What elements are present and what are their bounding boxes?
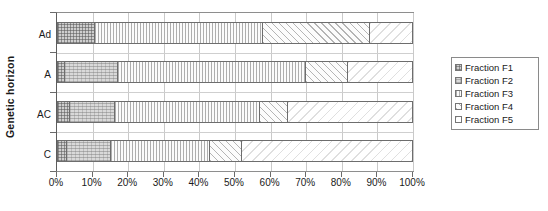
legend-label-f4: Fraction F4 [465, 102, 513, 112]
y-axis-title: Genetic horizon [2, 22, 18, 172]
legend-item-f2[interactable]: Fraction F2 [455, 74, 534, 87]
chart-legend: Fraction F1Fraction F2Fraction F3Fractio… [451, 57, 539, 130]
legend-swatch-icon-f1 [455, 64, 462, 71]
bar-segment-C-f5 [242, 141, 412, 161]
bar-segment-C-f3 [111, 141, 210, 161]
bar-segment-C-f4 [210, 141, 242, 161]
bar-segment-C-f2 [67, 141, 111, 161]
gridline-horizontal [57, 53, 413, 54]
x-axis-label-40: 40% [188, 178, 208, 188]
x-axis-tick [198, 172, 199, 177]
bar-segment-A-f2 [65, 62, 118, 82]
legend-item-f4[interactable]: Fraction F4 [455, 100, 534, 113]
y-axis-label-1: A [44, 70, 51, 80]
gridline-horizontal [57, 92, 413, 93]
legend-swatch-icon-f5 [455, 116, 462, 123]
bar-segment-AC-f5 [288, 102, 412, 122]
legend-label-f1: Fraction F1 [465, 63, 513, 73]
x-axis-label-0: 0% [49, 178, 63, 188]
x-axis-tick [270, 172, 271, 177]
x-axis-label-90: 90% [366, 178, 386, 188]
x-axis-tick [341, 172, 342, 177]
x-axis-label-30: 30% [153, 178, 173, 188]
bar-segment-AC-f3 [115, 102, 260, 122]
plot-area [56, 12, 414, 172]
x-axis-label-70: 70% [295, 178, 315, 188]
gridline-vertical [413, 13, 414, 171]
legend-item-f1[interactable]: Fraction F1 [455, 61, 534, 74]
bar-segment-AC-f1 [58, 102, 70, 122]
y-axis-label-0: Ad [39, 30, 51, 40]
x-axis-tick [56, 172, 57, 177]
bar-segment-Ad-f1 [58, 23, 95, 43]
bar-AC [57, 101, 413, 123]
x-axis-tick [412, 172, 413, 177]
chart-container: Genetic horizon Ad A AC C 0%10%20%30%40%… [0, 0, 548, 211]
legend-item-f3[interactable]: Fraction F3 [455, 87, 534, 100]
x-axis-label-10: 10% [82, 178, 102, 188]
x-axis-tick [127, 172, 128, 177]
bar-segment-A-f1 [58, 62, 65, 82]
x-axis-tick [234, 172, 235, 177]
bar-segment-AC-f2 [70, 102, 114, 122]
x-axis-tick [163, 172, 164, 177]
bar-segment-A-f4 [306, 62, 348, 82]
y-axis-label-3: C [44, 150, 51, 160]
x-axis-label-100: 100% [399, 178, 425, 188]
x-axis-label-50: 50% [224, 178, 244, 188]
x-axis-tick-labels: 0%10%20%30%40%50%60%70%80%90%100% [0, 178, 548, 192]
bar-segment-Ad-f5 [370, 23, 412, 43]
legend-swatch-icon-f2 [455, 77, 462, 84]
x-axis-tick [92, 172, 93, 177]
x-axis-tick [305, 172, 306, 177]
legend-item-f5[interactable]: Fraction F5 [455, 113, 534, 126]
bar-segment-Ad-f3 [95, 23, 263, 43]
bar-segment-AC-f4 [260, 102, 288, 122]
legend-swatch-icon-f3 [455, 90, 462, 97]
legend-label-f5: Fraction F5 [465, 115, 513, 125]
y-axis-label-2: AC [37, 110, 51, 120]
y-axis-category-labels: Ad A AC C [20, 12, 53, 172]
bar-segment-Ad-f4 [263, 23, 369, 43]
legend-label-f3: Fraction F3 [465, 89, 513, 99]
bar-Ad [57, 22, 413, 44]
gridline-horizontal [57, 132, 413, 133]
legend-swatch-icon-f4 [455, 103, 462, 110]
x-axis-tick [376, 172, 377, 177]
legend-label-f2: Fraction F2 [465, 76, 513, 86]
x-axis-label-80: 80% [331, 178, 351, 188]
x-axis-label-60: 60% [260, 178, 280, 188]
bar-segment-A-f3 [118, 62, 306, 82]
bar-segment-C-f1 [58, 141, 67, 161]
bar-C [57, 140, 413, 162]
bar-A [57, 61, 413, 83]
x-axis-label-20: 20% [117, 178, 137, 188]
bar-segment-A-f5 [348, 62, 412, 82]
